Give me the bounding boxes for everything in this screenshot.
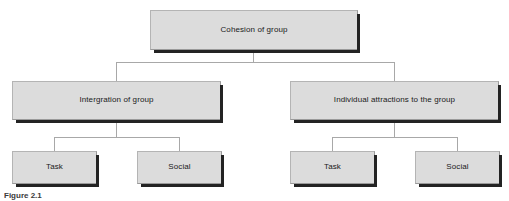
connector-integration-to-task bbox=[54, 137, 55, 151]
connector-attractions-to-task bbox=[332, 137, 333, 151]
connector-root-to-attractions bbox=[394, 62, 395, 81]
node-label: Cohesion of group bbox=[220, 26, 287, 35]
node-label: Social bbox=[168, 163, 190, 172]
node-label: Intergration of group bbox=[79, 96, 153, 105]
node-cohesion-of-group[interactable]: Cohesion of group bbox=[150, 10, 358, 50]
node-label: Individual attractions to the group bbox=[334, 96, 455, 105]
node-attractions-task[interactable]: Task bbox=[290, 151, 375, 184]
node-label: Social bbox=[446, 163, 468, 172]
connector-integration-to-social bbox=[179, 137, 180, 151]
connector-root-bar bbox=[116, 62, 395, 63]
node-attractions-social[interactable]: Social bbox=[415, 151, 500, 184]
connector-integration-bar bbox=[54, 137, 179, 138]
node-label: Task bbox=[46, 163, 63, 172]
node-label: Task bbox=[324, 163, 341, 172]
node-integration-social[interactable]: Social bbox=[137, 151, 222, 184]
node-integration-task[interactable]: Task bbox=[12, 151, 97, 184]
figure-caption: Figure 2.1 bbox=[4, 191, 42, 201]
connector-attractions-to-social bbox=[457, 137, 458, 151]
node-intergration-of-group[interactable]: Intergration of group bbox=[12, 81, 221, 120]
cohesion-hierarchy-diagram: Cohesion of group Intergration of group … bbox=[0, 0, 509, 201]
connector-attractions-bar bbox=[332, 137, 457, 138]
connector-root-to-integration bbox=[116, 62, 117, 81]
node-individual-attractions-to-the-group[interactable]: Individual attractions to the group bbox=[290, 81, 499, 120]
